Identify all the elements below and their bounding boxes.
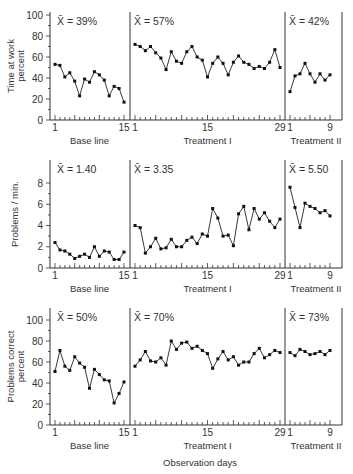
y-tick-label: 100	[26, 10, 43, 21]
mean-label: X̄ = 57%	[134, 15, 174, 27]
data-point	[118, 258, 121, 261]
data-point	[263, 211, 266, 214]
x-tick-label: 1	[132, 427, 138, 438]
data-point	[206, 235, 209, 238]
data-point	[54, 241, 57, 244]
data-point	[329, 214, 332, 217]
data-point	[134, 224, 137, 227]
y-tick-label: 0	[37, 263, 43, 274]
mean-label: X̄ = 70%	[134, 311, 174, 323]
y-axis-title: percent	[15, 50, 26, 82]
data-point	[190, 45, 193, 48]
data-point	[190, 236, 193, 239]
single-subject-chart: 020406080100Time at workpercent115Base l…	[0, 0, 353, 474]
x-tick-label: 1	[52, 427, 58, 438]
y-axis-title: percent	[15, 350, 26, 382]
data-point	[227, 73, 230, 76]
data-point	[237, 54, 240, 57]
mean-label: X̄ = 73%	[289, 311, 329, 323]
data-point	[149, 245, 152, 248]
data-point	[185, 50, 188, 53]
data-point	[314, 81, 317, 84]
data-point	[58, 248, 61, 251]
x-tick-label: 15	[202, 427, 214, 438]
x-axis-title: Observation days	[163, 457, 237, 468]
phase-label: Base line	[70, 135, 109, 146]
data-point	[242, 61, 245, 64]
y-tick-label: 6	[37, 199, 43, 210]
data-point	[273, 349, 276, 352]
data-point	[159, 247, 162, 250]
data-point	[319, 72, 322, 75]
data-point	[319, 211, 322, 214]
x-tick-label: 1	[132, 122, 138, 133]
data-point	[180, 62, 183, 65]
data-point	[211, 62, 214, 65]
data-point	[154, 361, 157, 364]
data-point	[54, 370, 57, 373]
data-point	[253, 207, 256, 210]
data-point	[170, 340, 173, 343]
data-point	[68, 71, 71, 74]
data-point	[113, 85, 116, 88]
mean-label: X̄ = 5.50	[289, 163, 329, 175]
panel-3: 020406080100Problems correctpercent115Ba…	[5, 308, 342, 468]
data-point	[58, 64, 61, 67]
data-point	[247, 228, 250, 231]
data-point	[211, 367, 214, 370]
phase-label: Base line	[70, 440, 109, 451]
data-point	[294, 206, 297, 209]
data-point	[185, 239, 188, 242]
y-tick-label: 20	[32, 399, 44, 410]
x-tick-label: 15	[118, 270, 130, 281]
x-tick-label: 1	[52, 270, 58, 281]
data-point	[93, 368, 96, 371]
data-point	[279, 218, 282, 221]
data-point	[304, 62, 307, 65]
data-point	[83, 78, 86, 81]
data-point	[289, 351, 292, 354]
data-point	[149, 359, 152, 362]
x-tick-label: 29	[274, 122, 286, 133]
x-tick-label: 9	[327, 427, 333, 438]
data-point	[299, 348, 302, 351]
data-point	[324, 79, 327, 82]
data-point	[123, 251, 126, 254]
phase-label: Treatment I	[183, 283, 231, 294]
x-tick-label: 1	[52, 122, 58, 133]
data-point	[253, 67, 256, 70]
data-point	[216, 217, 219, 220]
data-point	[93, 245, 96, 248]
data-point	[175, 348, 178, 351]
x-tick-label: 15	[202, 122, 214, 133]
data-point	[108, 251, 111, 254]
data-point	[123, 380, 126, 383]
phase-label: Base line	[70, 283, 109, 294]
data-point	[93, 70, 96, 73]
data-point	[294, 354, 297, 357]
data-point	[273, 226, 276, 229]
data-point	[309, 353, 312, 356]
data-point	[170, 50, 173, 53]
phase-label: Treatment II	[291, 135, 342, 146]
y-tick-label: 8	[37, 178, 43, 189]
x-tick-label: 9	[327, 122, 333, 133]
data-point	[68, 369, 71, 372]
data-point	[324, 353, 327, 356]
data-point	[83, 366, 86, 369]
data-point	[139, 45, 142, 48]
y-tick-label: 40	[32, 73, 44, 84]
data-point	[68, 253, 71, 256]
data-point	[139, 226, 142, 229]
data-point	[144, 49, 147, 52]
data-point	[329, 349, 332, 352]
data-point	[279, 66, 282, 69]
data-point	[159, 356, 162, 359]
data-point	[247, 361, 250, 364]
data-point	[314, 352, 317, 355]
data-point	[299, 72, 302, 75]
data-point	[73, 355, 76, 358]
data-point	[222, 235, 225, 238]
y-tick-label: 0	[37, 115, 43, 126]
data-point	[108, 379, 111, 382]
